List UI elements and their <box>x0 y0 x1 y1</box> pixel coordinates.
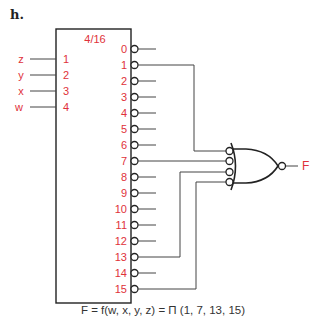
output-label-6: 6 <box>121 139 127 151</box>
output-inversion-bubbles <box>131 46 138 293</box>
output-label-7: 7 <box>121 155 127 167</box>
figure-heading: h. <box>10 7 24 22</box>
input-pin-3: 3 <box>63 85 69 97</box>
wire-output-1 <box>138 65 226 151</box>
output-label-13: 13 <box>115 251 127 263</box>
input-pin-2: 2 <box>63 69 69 81</box>
input-var-w: w <box>14 101 23 113</box>
output-label-4: 4 <box>121 107 127 119</box>
output-label-10: 10 <box>115 203 127 215</box>
output-label-f: F <box>302 159 309 173</box>
output-label-15: 15 <box>115 283 127 295</box>
input-pin-4: 4 <box>63 101 69 113</box>
decoder-circuit-diagram: h. 4/16 z y x w 1 2 3 4 0 1 2 3 4 5 6 7 … <box>0 0 324 319</box>
output-label-9: 9 <box>121 187 127 199</box>
wire-output-13 <box>138 172 226 257</box>
decoder-label: 4/16 <box>84 33 105 45</box>
gate-output-bubble <box>279 163 286 170</box>
input-var-y: y <box>18 69 24 81</box>
output-label-0: 0 <box>121 43 127 55</box>
nand-gate: F <box>226 143 309 190</box>
output-label-5: 5 <box>121 123 127 135</box>
output-label-2: 2 <box>121 75 127 87</box>
input-var-x: x <box>18 85 24 97</box>
input-var-z: z <box>18 53 24 65</box>
output-label-14: 14 <box>115 267 127 279</box>
gate-input-bubbles <box>226 148 233 186</box>
output-label-8: 8 <box>121 171 127 183</box>
input-pin-1: 1 <box>63 53 69 65</box>
output-label-3: 3 <box>121 91 127 103</box>
formula-caption: F = f(w, x, y, z) = Π (1, 7, 13, 15) <box>81 304 245 316</box>
output-label-1: 1 <box>121 59 127 71</box>
output-label-12: 12 <box>115 235 127 247</box>
output-label-11: 11 <box>116 219 127 231</box>
